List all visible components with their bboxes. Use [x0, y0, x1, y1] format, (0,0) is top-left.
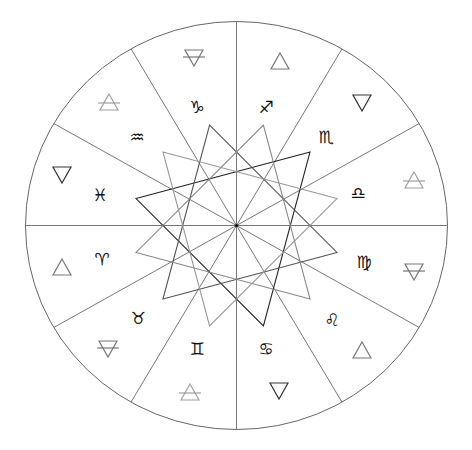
water-element-icon — [353, 95, 371, 111]
fire-element-icon — [271, 53, 289, 69]
air-element-icon — [98, 94, 120, 110]
star-triangle-light — [163, 152, 337, 326]
spoke-line — [131, 226, 237, 403]
aquarius-sign-icon: ♒ — [129, 127, 144, 147]
sagittarius-sign-icon: ♐ — [258, 97, 273, 117]
gemini-sign-icon: ♊ — [189, 339, 204, 359]
leo-sign-icon: ♌ — [324, 310, 339, 330]
aries-sign-icon: ♈ — [94, 249, 109, 269]
pisces-sign-icon: ♓ — [92, 185, 107, 205]
earth-element-icon — [183, 50, 205, 66]
air-element-icon — [179, 384, 201, 400]
earth-element-icon — [403, 264, 425, 280]
cancer-sign-icon: ♋ — [258, 339, 273, 359]
spoke-line — [54, 124, 237, 226]
fire-element-icon — [353, 342, 371, 358]
water-element-icon — [270, 383, 288, 399]
spoke-line — [131, 49, 237, 226]
libra-sign-icon: ♎ — [350, 183, 365, 203]
virgo-sign-icon: ♍ — [356, 252, 371, 272]
star-triangle-medium-dark — [163, 125, 337, 299]
capricorn-sign-icon: ♑ — [189, 97, 204, 117]
air-element-icon — [403, 172, 425, 188]
taurus-sign-icon: ♉ — [130, 308, 145, 328]
zodiac-wheel-diagram: ♑♒♓♈♉♊♋♌♍♎♏♐ — [0, 0, 472, 450]
star-triangle-medium — [136, 125, 310, 299]
water-element-icon — [53, 167, 71, 183]
earth-element-icon — [97, 341, 119, 357]
fire-element-icon — [53, 259, 71, 275]
star-triangle-dark — [136, 152, 310, 326]
scorpio-sign-icon: ♏ — [318, 127, 333, 147]
center-point — [235, 224, 238, 227]
